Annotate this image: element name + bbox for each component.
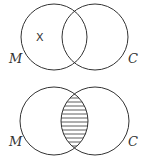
label-c: C (128, 134, 138, 149)
label-c: C (128, 51, 138, 66)
venn-top: X M C (8, 4, 138, 70)
label-m: M (8, 134, 23, 149)
venn-bottom: M C (8, 87, 138, 155)
venn-diagrams: X M C M C (0, 0, 149, 167)
circle-m (21, 4, 87, 70)
label-m: M (8, 51, 23, 66)
x-mark: X (36, 31, 44, 44)
circle-c (62, 4, 128, 70)
